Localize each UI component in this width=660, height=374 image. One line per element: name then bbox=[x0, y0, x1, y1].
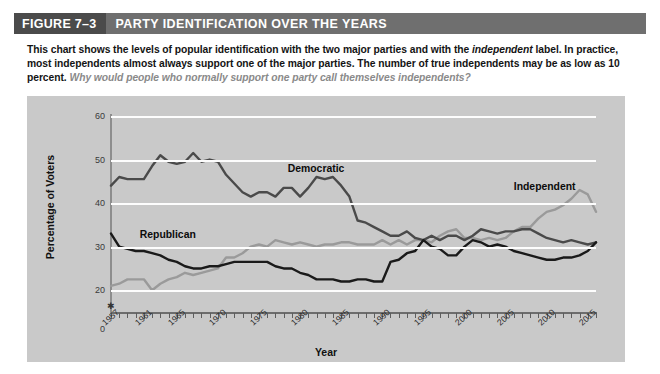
series-label-republican: Republican bbox=[140, 229, 196, 240]
y-tick-label: 40 bbox=[83, 198, 105, 208]
x-tick-mark bbox=[407, 313, 408, 318]
series-label-independent: Independent bbox=[514, 181, 576, 192]
y-tick-label: 50 bbox=[83, 155, 105, 165]
y-axis-title: Percentage of Voters bbox=[44, 127, 56, 287]
x-tick-mark bbox=[399, 313, 400, 318]
y-tick-label-zero: 0 bbox=[83, 324, 105, 334]
figure-title: PARTY IDENTIFICATION OVER THE YEARS bbox=[106, 13, 387, 34]
caption-emphasis: independent bbox=[472, 44, 533, 55]
x-tick-mark bbox=[201, 313, 202, 318]
figure-caption: This chart shows the levels of popular i… bbox=[27, 43, 627, 85]
x-tick-mark bbox=[522, 313, 523, 318]
y-tick-label: 60 bbox=[83, 111, 105, 121]
x-tick-mark bbox=[571, 313, 572, 318]
x-tick-mark bbox=[366, 313, 367, 318]
x-tick-mark bbox=[530, 313, 531, 318]
gridline bbox=[111, 290, 596, 292]
figure-header-bar: FIGURE 7–3 PARTY IDENTIFICATION OVER THE… bbox=[14, 13, 646, 34]
gridline bbox=[111, 160, 596, 162]
x-tick-mark bbox=[448, 313, 449, 318]
x-tick-mark bbox=[284, 313, 285, 318]
x-tick-mark bbox=[193, 313, 194, 318]
caption-part1: This chart shows the levels of popular i… bbox=[27, 44, 472, 55]
gridline bbox=[111, 116, 596, 118]
gridline bbox=[111, 203, 596, 205]
x-tick-mark bbox=[563, 313, 564, 318]
x-tick-mark bbox=[358, 313, 359, 318]
x-axis-title: Year bbox=[27, 346, 625, 358]
caption-question: Why would people who normally support on… bbox=[69, 72, 470, 83]
series-label-democratic: Democratic bbox=[288, 163, 345, 174]
plot-area bbox=[111, 116, 596, 312]
chart-panel: Percentage of Voters 20304050600 ✱ 19571… bbox=[27, 96, 625, 362]
x-tick-mark bbox=[440, 313, 441, 318]
x-tick-mark bbox=[275, 313, 276, 318]
x-tick-mark bbox=[243, 313, 244, 318]
y-tick-label: 30 bbox=[83, 242, 105, 252]
x-tick-mark bbox=[481, 313, 482, 318]
x-tick-mark bbox=[127, 313, 128, 318]
x-tick-mark bbox=[160, 313, 161, 318]
x-tick-mark bbox=[489, 313, 490, 318]
gridline bbox=[111, 247, 596, 249]
x-tick-mark bbox=[317, 313, 318, 318]
x-tick-mark bbox=[234, 313, 235, 318]
chart-line-svg bbox=[111, 116, 596, 312]
y-tick-label: 20 bbox=[83, 285, 105, 295]
x-tick-mark bbox=[325, 313, 326, 318]
figure-number-label: FIGURE 7–3 bbox=[14, 13, 106, 34]
figure-root: FIGURE 7–3 PARTY IDENTIFICATION OVER THE… bbox=[0, 0, 660, 374]
